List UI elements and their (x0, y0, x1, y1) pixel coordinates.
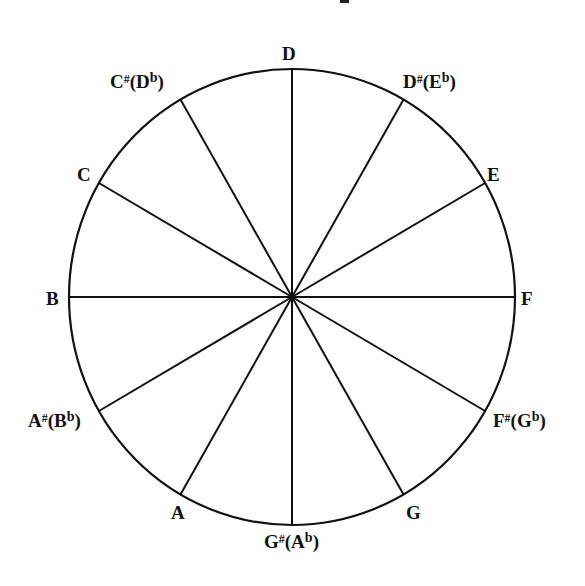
note-label-c-sharp: C#(Db) (110, 72, 164, 91)
note-label-f-sharp: F#(Gb) (493, 411, 546, 430)
note-label-b: B (46, 289, 59, 308)
enharmonic-name: D (136, 71, 150, 92)
note-name: F (493, 410, 505, 431)
spoke-7 (181, 297, 293, 495)
enharmonic-name: B (54, 410, 67, 431)
flat-sign: b (532, 409, 540, 424)
enharmonic-name: E (429, 71, 442, 92)
note-label-a: A (171, 503, 185, 522)
enharmonic-name: A (291, 531, 305, 552)
note-label-a-sharp: A#(Bb) (28, 411, 81, 430)
note-name: D (282, 43, 296, 64)
spoke-11 (181, 100, 293, 298)
paren-close: ) (313, 531, 319, 552)
paren-close: ) (450, 71, 456, 92)
note-name: C (110, 71, 124, 92)
note-name: D (403, 71, 417, 92)
note-label-c: C (77, 165, 91, 184)
spoke-5 (292, 297, 404, 495)
note-name: G (264, 531, 279, 552)
note-label-d-sharp: D#(Eb) (403, 72, 456, 91)
note-name: F (521, 288, 533, 309)
note-label-g: G (406, 503, 421, 522)
spoke-10 (99, 183, 292, 297)
flat-sign: b (305, 530, 313, 545)
center-point (289, 294, 295, 300)
spoke-2 (292, 183, 485, 297)
note-name: A (171, 502, 185, 523)
note-label-g-sharp: G#(Ab) (264, 532, 319, 551)
flat-sign: b (442, 70, 450, 85)
note-label-d: D (282, 44, 296, 63)
paren-close: ) (158, 71, 164, 92)
spoke-1 (292, 100, 404, 298)
note-label-f: F (521, 289, 533, 308)
note-label-e: E (487, 165, 500, 184)
spoke-8 (99, 297, 292, 411)
flat-sign: b (150, 70, 158, 85)
note-name: A (28, 410, 42, 431)
spoke-4 (292, 297, 485, 411)
paren-close: ) (75, 410, 81, 431)
flat-sign: b (67, 409, 75, 424)
paren-close: ) (540, 410, 546, 431)
enharmonic-name: G (517, 410, 532, 431)
note-name: C (77, 164, 91, 185)
note-name: B (46, 288, 59, 309)
note-circle-diagram (0, 0, 585, 586)
note-name: G (406, 502, 421, 523)
note-name: E (487, 164, 500, 185)
